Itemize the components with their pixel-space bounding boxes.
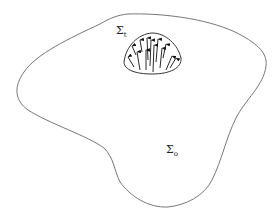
diagram-canvas: Σt Σo (0, 0, 278, 216)
flux-arrows (128, 38, 176, 72)
inner-region-label: Σt (116, 25, 127, 39)
inner-region-boundary (124, 33, 181, 74)
diagram-svg (0, 0, 278, 216)
outer-region-label: Σo (166, 144, 178, 158)
outer-region-boundary (17, 14, 266, 207)
